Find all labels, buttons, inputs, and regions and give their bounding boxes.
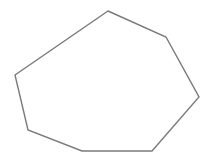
heptagon-diagram <box>0 0 209 160</box>
heptagon-shape <box>15 11 199 151</box>
diagram-canvas <box>0 0 209 160</box>
